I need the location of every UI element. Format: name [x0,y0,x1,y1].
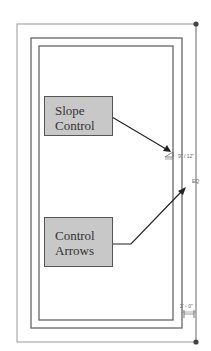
slope-control-label-line2: Control [55,118,112,133]
grip-dot-top[interactable] [193,21,198,26]
outer-overhang-outline [17,24,196,342]
slope-control-leader-arrow [112,117,171,152]
overhang-dimension-marks [182,310,196,318]
slope-value-text[interactable]: 9" / 12" [178,153,194,159]
slope-symbol-icon[interactable] [165,152,173,159]
eq-label: EQ [192,178,199,184]
wall-outline [39,46,173,320]
grip-dot-bottom[interactable] [193,339,198,344]
roof-plan-drawing [0,0,211,351]
control-arrows-callout: Control Arrows [44,217,113,267]
control-arrows-leader-arrow [112,187,186,244]
control-arrows-label-line2: Arrows [55,243,112,258]
overhang-dimension-text[interactable]: 2' - 0" [180,303,193,309]
slope-control-callout: Slope Control [44,96,113,136]
control-arrows-label-line1: Control [55,228,112,243]
roof-edge-outline [31,38,182,328]
slope-control-label-line1: Slope [55,103,112,118]
